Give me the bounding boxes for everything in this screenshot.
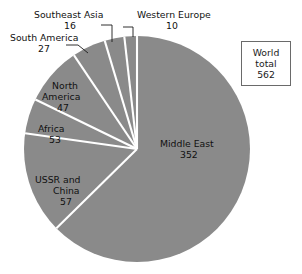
pie-chart-figure: Southeast Asia 16 Western Europe 10 Sout… [0, 0, 302, 274]
world-total-value: 562 [257, 69, 275, 80]
label-north-america-name-line2: America [42, 91, 80, 102]
label-north-america-name-line1: North [52, 80, 78, 91]
label-western-europe-value: 10 [166, 20, 178, 31]
label-ussr-china-value: 57 [60, 196, 72, 207]
label-ussr-china-name-line2: China [53, 185, 80, 196]
label-middle-east-name: Middle East [160, 138, 214, 149]
world-total-box: World total 562 [241, 41, 291, 86]
label-ussr-china-name-line1: USSR and [35, 174, 81, 185]
world-total-line1: World [253, 47, 280, 58]
world-total-line2: total [255, 58, 276, 69]
label-africa-value: 53 [49, 134, 61, 145]
leader-line-western-europe [123, 27, 133, 37]
label-western-europe-name: Western Europe [137, 9, 211, 20]
label-middle-east-value: 352 [180, 149, 198, 160]
label-south-america-name: South America [10, 32, 78, 43]
label-africa-name: Africa [38, 123, 65, 134]
label-south-america-value: 27 [38, 43, 50, 54]
label-southeast-asia-value: 16 [64, 20, 76, 31]
label-north-america-value: 47 [57, 102, 69, 113]
label-southeast-asia-name: Southeast Asia [34, 9, 103, 20]
